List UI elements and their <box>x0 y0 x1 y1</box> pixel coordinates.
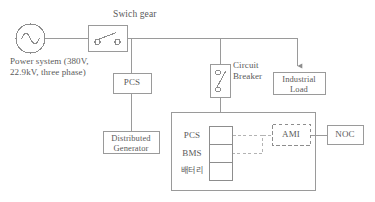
distributed-generator-label-line1: Distributed <box>103 133 159 143</box>
ess-stack-label-pcs: PCS <box>178 130 206 141</box>
industrial-load-label-line1: Industrial <box>273 74 325 84</box>
switchgear-contact-left <box>95 39 100 44</box>
ess-cell-pcs <box>210 127 233 145</box>
diagram-canvas: Power system (380V, 22.9kV, three phase)… <box>0 0 375 202</box>
distributed-generator-label-line2: Generator <box>103 143 159 153</box>
ess-cell-bms <box>210 145 233 163</box>
circuit-breaker-contact-top <box>216 70 221 75</box>
circuit-breaker-label-line1: Circuit <box>233 60 259 71</box>
switchgear-box <box>89 26 128 52</box>
industrial-load-label-line2: Load <box>273 84 325 94</box>
pcs-top-label: PCS <box>113 77 151 88</box>
switchgear-contact-right <box>115 39 120 44</box>
power-system-caption-line1: Power system (380V, <box>10 56 88 67</box>
power-system-caption-line2: 22.9kV, three phase) <box>10 67 86 78</box>
ess-stack-label-bms: BMS <box>178 148 206 159</box>
noc-label: NOC <box>327 129 363 140</box>
ac-source-sine-wave <box>22 33 40 43</box>
circuit-breaker-label-line2: Breaker <box>233 71 262 82</box>
ess-cell-battery <box>210 163 233 181</box>
ami-label: AMI <box>272 129 310 140</box>
switchgear-label: Swich gear <box>113 9 156 20</box>
ess-stack-label-battery: 배터리 <box>176 166 208 175</box>
